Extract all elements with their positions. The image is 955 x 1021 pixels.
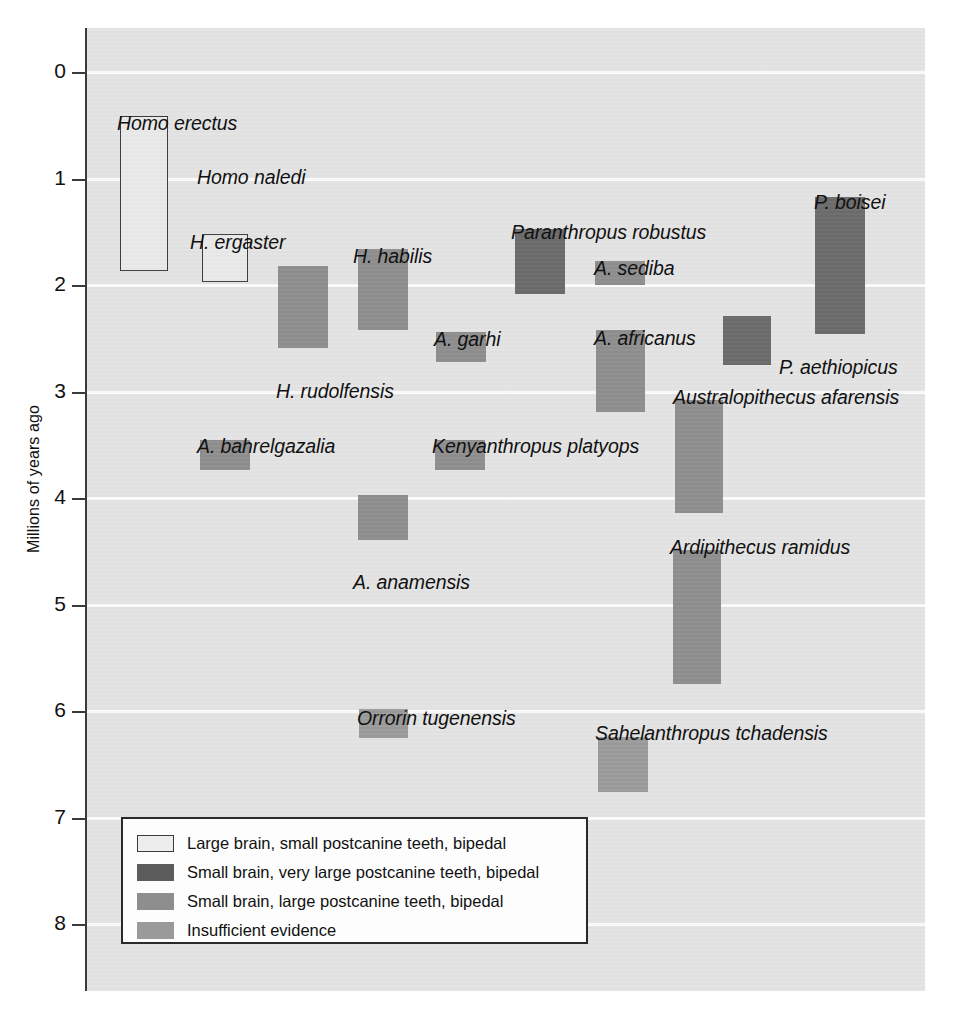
bar-label-p-aethiopicus: P. aethiopicus [779, 356, 898, 379]
bar-label-australopithecus-afarensis: Australopithecus afarensis [673, 386, 899, 409]
legend-item-1[interactable]: Small brain, very large postcanine teeth… [137, 858, 586, 887]
range-bar-p-aethiopicus[interactable] [723, 316, 771, 365]
bar-label-paranthropus-robustus: Paranthropus robustus [511, 221, 706, 244]
legend: Large brain, small postcanine teeth, bip… [121, 817, 588, 944]
y-tick-label: 7 [38, 805, 66, 829]
legend-swatch-icon [137, 864, 174, 881]
range-bar-h-rudolfensis[interactable] [278, 266, 328, 348]
y-tick-mark [72, 818, 86, 820]
bar-label-a-anamensis: A. anamensis [353, 571, 470, 594]
y-tick-label: 0 [38, 59, 66, 83]
y-tick-label: 5 [38, 592, 66, 616]
y-tick-label: 6 [38, 698, 66, 722]
bar-label-a-africanus: A. africanus [594, 327, 696, 350]
y-tick-label: 4 [38, 485, 66, 509]
bar-label-h-habilis: H. habilis [353, 245, 432, 268]
bar-label-homo-naledi: Homo naledi [197, 166, 305, 189]
legend-swatch-icon [137, 922, 174, 939]
gridline [87, 284, 925, 287]
bar-label-ardipithecus-ramidus: Ardipithecus ramidus [670, 536, 850, 559]
gridline [87, 71, 925, 74]
range-bar-australopithecus-afarensis[interactable] [675, 400, 723, 513]
bar-label-a-sediba: A. sediba [594, 257, 674, 280]
bar-label-homo-erectus: Homo erectus [117, 112, 237, 135]
bar-label-a-garhi: A. garhi [434, 328, 500, 351]
hominin-timeline-chart: Millions of years ago 012345678 Homo ere… [0, 0, 955, 1021]
y-tick-mark [72, 924, 86, 926]
bar-label-sahelanthropus-tchadensis: Sahelanthropus tchadensis [595, 722, 828, 745]
y-tick-mark [72, 285, 86, 287]
legend-item-0[interactable]: Large brain, small postcanine teeth, bip… [137, 829, 586, 858]
legend-item-2[interactable]: Small brain, large postcanine teeth, bip… [137, 887, 586, 916]
legend-label: Small brain, very large postcanine teeth… [187, 863, 539, 882]
legend-swatch-icon [137, 835, 174, 852]
y-tick-mark [72, 72, 86, 74]
y-tick-mark [72, 605, 86, 607]
bar-label-kenyanthropus-platyops: Kenyanthropus platyops [432, 435, 639, 458]
range-bar-p-boisei[interactable] [815, 197, 865, 334]
range-bar-ardipithecus-ramidus[interactable] [673, 550, 721, 684]
bar-label-a-bahrelgazalia: A. bahrelgazalia [197, 435, 335, 458]
gridline [87, 497, 925, 500]
legend-label: Small brain, large postcanine teeth, bip… [187, 892, 503, 911]
legend-swatch-icon [137, 893, 174, 910]
legend-item-3[interactable]: Insufficient evidence [137, 916, 586, 945]
bar-label-h-ergaster: H. ergaster [190, 231, 285, 254]
legend-label: Insufficient evidence [187, 921, 336, 940]
y-tick-label: 2 [38, 272, 66, 296]
y-tick-label: 1 [38, 166, 66, 190]
gridline [87, 604, 925, 607]
bar-label-p-boisei: P. boisei [814, 191, 885, 214]
bar-label-h-rudolfensis: H. rudolfensis [276, 380, 394, 403]
legend-label: Large brain, small postcanine teeth, bip… [187, 834, 506, 853]
y-tick-mark [72, 392, 86, 394]
y-tick-label: 8 [38, 911, 66, 935]
bar-label-orrorin-tugenensis: Orrorin tugenensis [357, 707, 516, 730]
y-tick-mark [72, 711, 86, 713]
y-tick-mark [72, 498, 86, 500]
range-bar-a-anamensis[interactable] [358, 495, 408, 540]
range-bar-homo-erectus[interactable] [120, 116, 168, 271]
y-tick-mark [72, 179, 86, 181]
y-tick-label: 3 [38, 379, 66, 403]
